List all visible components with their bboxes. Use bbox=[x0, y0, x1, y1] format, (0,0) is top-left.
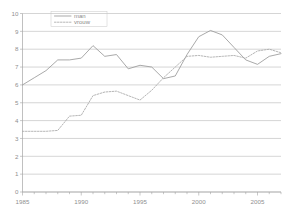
x-tick-label-1995: 1995 bbox=[133, 198, 147, 205]
y-tick-label-10: 10 bbox=[12, 10, 19, 17]
y-tick-label-3: 3 bbox=[15, 135, 19, 142]
y-tick-label-0: 0 bbox=[15, 188, 19, 195]
x-tick-label-1990: 1990 bbox=[74, 198, 88, 205]
x-tick-label-2005: 2005 bbox=[251, 198, 265, 205]
gridlines bbox=[23, 14, 282, 193]
y-tick-label-2: 2 bbox=[15, 153, 19, 160]
y-axis: 012345678910 bbox=[12, 10, 23, 196]
y-tick-label-4: 4 bbox=[15, 117, 19, 124]
y-tick-label-6: 6 bbox=[15, 81, 19, 88]
legend-label-vrouw: vrouw bbox=[74, 19, 91, 25]
series-line-man bbox=[23, 30, 282, 84]
x-tick-label-2000: 2000 bbox=[192, 198, 206, 205]
chart-canvas: 012345678910 19851990199520002005 manvro… bbox=[0, 0, 288, 218]
series-lines bbox=[23, 30, 282, 131]
y-tick-label-1: 1 bbox=[15, 170, 19, 177]
y-tick-label-8: 8 bbox=[15, 45, 19, 52]
x-tick-label-1985: 1985 bbox=[16, 198, 30, 205]
line-chart: 012345678910 19851990199520002005 manvro… bbox=[0, 0, 288, 218]
series-line-vrouw bbox=[23, 49, 282, 131]
y-tick-label-7: 7 bbox=[15, 63, 19, 70]
x-axis: 19851990199520002005 bbox=[16, 192, 281, 205]
legend-label-man: man bbox=[74, 13, 86, 19]
y-tick-label-5: 5 bbox=[15, 99, 19, 106]
y-tick-label-9: 9 bbox=[15, 28, 19, 35]
